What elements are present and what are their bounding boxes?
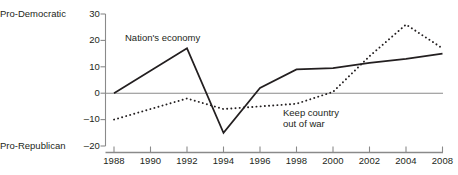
axis-caption-pro-republican: Pro-Republican	[0, 140, 58, 151]
x-tick-label-2000: 2000	[313, 155, 353, 166]
x-tick-label-1990: 1990	[131, 155, 171, 166]
x-tick-label-1998: 1998	[277, 155, 317, 166]
y-tick-label-0: 0	[60, 87, 100, 98]
series-line-nations-economy	[114, 48, 443, 132]
x-tick-label-1994: 1994	[204, 155, 244, 166]
x-tick-label-2004: 2004	[386, 155, 426, 166]
y-tick-marks	[101, 14, 106, 146]
x-tick-label-1988: 1988	[94, 155, 134, 166]
series-annotation-line-2: out of war	[283, 118, 325, 129]
y-tick-label-20: 20	[60, 34, 100, 45]
y-tick-label-neg10: –10	[58, 113, 100, 124]
x-tick-label-1996: 1996	[240, 155, 280, 166]
x-tick-marks	[114, 147, 443, 153]
series-annotation-keep-country-out-of-war: Keep country out of war	[283, 107, 339, 129]
series-annotation-line-1: Keep country	[283, 107, 339, 118]
y-tick-label-30: 30	[60, 8, 100, 19]
series-annotation-nations-economy: Nation's economy	[125, 32, 200, 43]
axis-caption-pro-democratic: Pro-Democratic	[0, 8, 58, 19]
x-tick-label-1992: 1992	[167, 155, 207, 166]
x-tick-label-2002: 2002	[350, 155, 390, 166]
x-tick-label-2008: 2008	[423, 155, 458, 166]
y-tick-label-10: 10	[60, 61, 100, 72]
